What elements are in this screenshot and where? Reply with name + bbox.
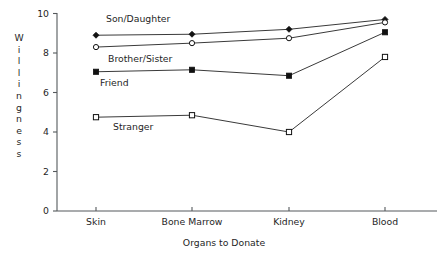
chart-container: Willingness 0246810 Son/DaughterBrother/…	[0, 0, 441, 256]
y-axis-tick-label: 2	[43, 166, 49, 177]
x-axis-tick-labels: SkinBone MarrowKidneyBlood	[86, 216, 398, 227]
y-axis-ticks: 0246810	[37, 8, 57, 217]
data-point-marker	[286, 36, 291, 41]
y-axis-tick-label: 4	[43, 126, 49, 137]
data-point-marker	[382, 54, 387, 59]
series-label-son-daughter: Son/Daughter	[106, 13, 171, 24]
data-point-marker	[286, 26, 292, 32]
data-point-marker	[189, 41, 194, 46]
series-markers-group	[93, 16, 388, 134]
data-point-marker	[286, 129, 291, 134]
series-label-brother-sister: Brother/Sister	[108, 53, 173, 64]
x-axis-tick-label: Blood	[372, 216, 398, 227]
series-label-friend: Friend	[100, 77, 129, 88]
y-axis-tick-label: 0	[43, 205, 49, 216]
data-point-marker	[93, 44, 98, 49]
x-axis-tick-label: Bone Marrow	[162, 216, 223, 227]
y-axis-tick-label: 6	[43, 87, 49, 98]
data-point-marker	[189, 67, 194, 72]
y-axis-tick-label: 10	[37, 8, 49, 19]
x-axis-tick-label: Kidney	[273, 216, 305, 227]
data-point-marker	[189, 113, 194, 118]
y-axis-tick-label: 8	[43, 47, 49, 58]
series-inline-labels: Son/DaughterBrother/SisterFriendStranger	[100, 13, 173, 132]
chart-axes	[57, 13, 437, 211]
line-chart-plot: 0246810 Son/DaughterBrother/SisterFriend…	[0, 0, 441, 256]
data-point-marker	[382, 20, 387, 25]
data-point-marker	[382, 30, 387, 35]
x-axis-tick-label: Skin	[86, 216, 106, 227]
data-point-marker	[93, 32, 99, 38]
x-axis-title: Organs to Donate	[183, 237, 266, 248]
series-label-stranger: Stranger	[113, 121, 154, 132]
data-point-marker	[93, 115, 98, 120]
data-point-marker	[286, 73, 291, 78]
x-axis-ticks	[96, 207, 385, 211]
series-lines-group	[96, 19, 385, 132]
data-point-marker	[93, 69, 98, 74]
data-point-marker	[189, 31, 195, 37]
